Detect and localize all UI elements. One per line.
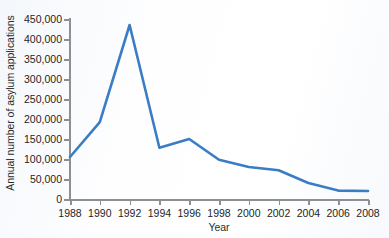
series-plot	[0, 0, 389, 238]
y-axis-tick	[64, 59, 69, 61]
y-axis-tick	[64, 79, 69, 81]
y-axis-tick	[64, 19, 69, 21]
x-axis-tick	[130, 200, 132, 205]
x-axis-tick-label: 1990	[88, 207, 111, 219]
asylum-applications-line-chart: Annual number of asylum applications 050…	[0, 0, 389, 238]
x-axis-tick-label: 1998	[207, 207, 230, 219]
x-axis-tick-label: 2002	[267, 207, 290, 219]
x-axis-tick-label: 2006	[327, 207, 350, 219]
x-axis-tick	[219, 200, 221, 205]
x-axis-tick	[189, 200, 191, 205]
x-axis-tick-label: 1994	[148, 207, 171, 219]
x-axis-title: Year	[69, 221, 369, 233]
x-axis-tick	[70, 200, 72, 205]
x-axis-tick	[338, 200, 340, 205]
x-axis-tick	[279, 200, 281, 205]
y-axis-tick	[64, 99, 69, 101]
x-axis-tick	[100, 200, 102, 205]
x-axis-tick	[368, 200, 370, 205]
x-axis-tick-label: 1988	[58, 207, 81, 219]
x-axis-tick-label: 1996	[178, 207, 201, 219]
y-axis-tick	[64, 199, 69, 201]
x-axis-tick	[249, 200, 251, 205]
x-axis-tick-label: 2004	[297, 207, 320, 219]
x-axis-tick	[159, 200, 161, 205]
y-axis-tick	[64, 119, 69, 121]
asylum-applications-series-line	[70, 25, 368, 191]
x-axis-tick-label: 2008	[356, 207, 379, 219]
y-axis-tick	[64, 159, 69, 161]
y-axis-tick	[64, 39, 69, 41]
x-axis-tick-label: 2000	[237, 207, 260, 219]
x-axis-tick	[308, 200, 310, 205]
x-axis-tick-label: 1992	[118, 207, 141, 219]
y-axis-tick	[64, 179, 69, 181]
y-axis-tick	[64, 139, 69, 141]
